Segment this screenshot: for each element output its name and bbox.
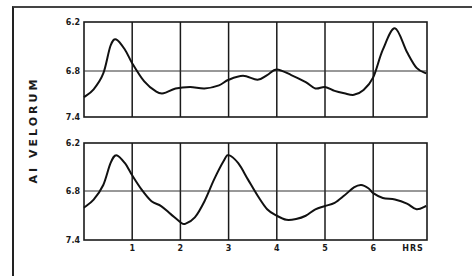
light-curve-line <box>84 155 426 224</box>
x-tick-label: 1 <box>129 244 135 253</box>
y-tick-label: 6.8 <box>66 187 81 196</box>
x-tick-label: 3 <box>226 244 232 253</box>
x-tick-label: 2 <box>178 244 184 253</box>
x-unit-label: HRS <box>402 244 424 253</box>
y-tick-label: 6.2 <box>66 139 80 148</box>
y-tick-label: 6.2 <box>66 18 80 27</box>
x-tick-label: 6 <box>370 244 376 253</box>
top-panel: 6.26.87.4 <box>66 18 427 122</box>
y-tick-label: 6.8 <box>66 67 81 76</box>
x-tick-label: 4 <box>274 244 280 253</box>
y-tick-label: 7.4 <box>66 236 81 245</box>
bottom-panel: 6.26.87.4 <box>66 139 427 245</box>
light-curve-line <box>84 28 426 97</box>
y-tick-label: 7.4 <box>66 113 81 122</box>
x-tick-label: 5 <box>322 244 328 253</box>
